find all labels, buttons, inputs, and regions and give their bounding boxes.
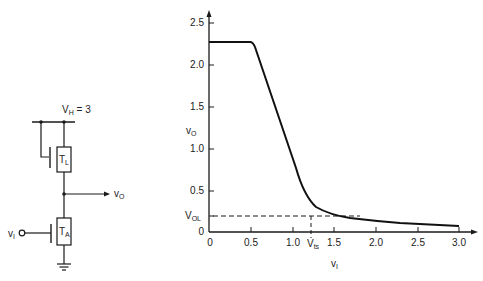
x-axis-label: vI (331, 258, 338, 270)
driver-transistor-label: TA (59, 226, 70, 238)
inverter-circuit: VH = 3 TL vO TA vI (8, 104, 125, 270)
svg-text:3.0: 3.0 (452, 237, 466, 248)
input-terminal (19, 230, 25, 236)
svg-text:0.5: 0.5 (190, 185, 204, 196)
svg-text:2.5: 2.5 (411, 237, 425, 248)
svg-text:1.0: 1.0 (286, 237, 300, 248)
svg-text:2.5: 2.5 (190, 17, 204, 28)
vol-label: VOL (185, 210, 201, 222)
svg-text:0: 0 (198, 226, 204, 237)
svg-text:2.0: 2.0 (190, 59, 204, 70)
vts-label: Vts (307, 238, 320, 250)
ground-icon (57, 264, 71, 270)
transfer-chart: 2.5 2.0 1.5 1.0 0.5 0 VOL vO 0 0.5 1.0 1… (185, 10, 478, 270)
arrow-icon (104, 192, 110, 197)
svg-text:0.5: 0.5 (244, 237, 258, 248)
svg-text:0: 0 (207, 237, 213, 248)
svg-text:1.5: 1.5 (190, 101, 204, 112)
y-axis-label: vO (186, 125, 197, 137)
load-gate-wire (41, 122, 49, 157)
transfer-curve (209, 42, 459, 226)
x-arrow-icon (471, 230, 478, 235)
figure: VH = 3 TL vO TA vI (0, 0, 483, 281)
svg-text:1.0: 1.0 (190, 143, 204, 154)
x-tick-labels: 0 0.5 1.0 1.5 2.0 2.5 3.0 Vts (207, 237, 466, 250)
load-transistor-label: TL (59, 154, 69, 166)
supply-label: VH = 3 (62, 104, 91, 116)
x-ticks (251, 227, 459, 232)
y-arrow-icon (207, 10, 212, 17)
y-ticks (209, 23, 214, 216)
svg-text:2.0: 2.0 (369, 237, 383, 248)
input-label: vI (8, 228, 15, 240)
output-label: vO (114, 188, 125, 200)
svg-text:1.5: 1.5 (327, 237, 341, 248)
